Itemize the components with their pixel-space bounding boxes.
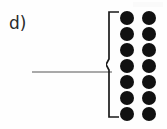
scan-artifact: [133, 2, 163, 7]
dot: [120, 107, 134, 121]
dot: [142, 27, 156, 41]
curly-brace-icon: [106, 11, 120, 118]
dot: [120, 75, 134, 89]
dot: [142, 107, 156, 121]
dot-row: [120, 107, 156, 121]
dot: [142, 75, 156, 89]
dot: [120, 11, 134, 25]
dot: [142, 59, 156, 73]
panel-label: d): [9, 14, 26, 33]
dot-row: [120, 91, 156, 105]
dot: [120, 91, 134, 105]
dot-row: [120, 27, 156, 41]
dot-row: [120, 75, 156, 89]
dot: [120, 43, 134, 57]
dot: [120, 27, 134, 41]
dot-row: [120, 59, 156, 73]
pointer-line: [32, 71, 112, 73]
dot-row: [120, 11, 156, 25]
dot: [120, 59, 134, 73]
dot: [142, 43, 156, 57]
dot-array: [120, 11, 156, 121]
dot-row: [120, 43, 156, 57]
dot: [142, 91, 156, 105]
dot: [142, 11, 156, 25]
figure-panel: d): [0, 0, 167, 129]
